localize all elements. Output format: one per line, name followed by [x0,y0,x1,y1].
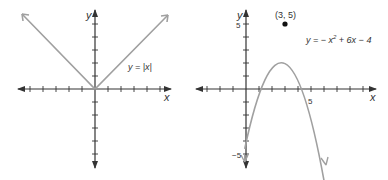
abs-value-graph: y x y = |x| [18,9,171,168]
vertex-point [282,21,287,26]
vertex-label: (3, 5) [275,10,296,20]
x-tick-label-5: 5 [308,97,313,106]
y-axis-label: y [236,9,244,21]
curve-arrow-left-icon [241,155,248,162]
y-tick-label-5: 5 [236,21,241,30]
equation-label: y = − x2 + 6x − 4 [305,34,371,45]
x-axis-label: x [163,91,170,103]
y-axis-label: y [85,9,93,21]
figure: y x y = |x| y x (3, 5) [0,0,388,180]
parabola-curve [245,63,326,180]
curve-arrow-right-icon [321,157,328,165]
x-axis-label: x [369,91,376,103]
y-tick-label-neg5: −5 [232,151,242,160]
parabola-graph: y x (3, 5) 5 −5 5 y = − x2 + 6x − 4 [196,9,376,180]
equation-label: y = |x| [127,62,152,72]
